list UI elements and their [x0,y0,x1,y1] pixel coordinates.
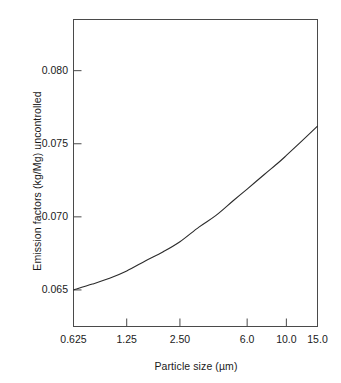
x-axis-ticks [74,319,318,327]
x-tick-label: 15.0 [307,333,327,345]
y-axis-tick-labels: 0.0650.0700.0750.080 [22,0,68,383]
x-tick-label: 6.0 [240,333,255,345]
x-tick-label: 1.25 [116,333,136,345]
chart-figure: 0.0650.0700.0750.080 0.6251.252.506.010.… [0,0,341,383]
plot-frame [74,20,318,327]
x-tick-label: 0.625 [60,333,86,345]
x-tick-label: 2.50 [170,333,190,345]
y-axis-ticks [74,71,82,290]
x-axis-tick-labels: 0.6251.252.506.010.015.0 [0,333,341,349]
x-axis-title: Particle size (µm) [73,360,319,372]
data-series-line [74,126,318,290]
x-tick-label: 10.0 [276,333,296,345]
y-axis-title: Emission factors (kg/Mg) uncontrolled [31,56,43,306]
